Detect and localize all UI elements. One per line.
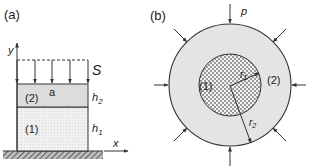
core-label: (1) [199,80,212,92]
shell-label: (2) [267,74,280,86]
y-axis-label: y [7,44,15,56]
panel-a-label: (a) [4,7,20,22]
x-axis-label: x [112,137,119,149]
load-label: S [92,62,102,78]
panel-a: (a) y x S a (2) (1) h2 h1 [3,7,128,159]
panel-b-label: (b) [150,8,166,23]
load-arrows [17,60,88,83]
ground-hatch [3,151,103,159]
panel-b: (b) p (1) (2) r1 r2 [150,4,306,166]
layer-2-label: (2) [25,92,38,104]
h2-label: h2 [92,91,103,106]
composite-diagram: (a) y x S a (2) (1) h2 h1 (b) [0,0,313,168]
h1-label: h1 [92,122,103,137]
interface-label: a [49,86,56,98]
pressure-label: p [240,5,247,17]
layer-1-label: (1) [25,123,38,135]
